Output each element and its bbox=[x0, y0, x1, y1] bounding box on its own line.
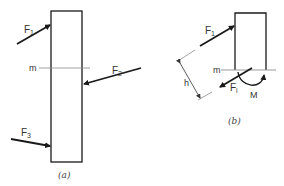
cut-body bbox=[235, 13, 266, 70]
force-f1-label: F1 bbox=[24, 24, 34, 36]
figure-a: m F1 F2 F3 (a) bbox=[11, 11, 141, 180]
free-body-diagram: m F1 F2 F3 (a) m F1 Fi M h (b) bbox=[0, 0, 284, 186]
f1-line-of-action bbox=[178, 50, 195, 61]
caption-a: (a) bbox=[58, 170, 71, 180]
h-dimension bbox=[180, 63, 200, 98]
caption-b: (b) bbox=[228, 116, 241, 126]
force-f3-label: F3 bbox=[21, 127, 31, 139]
section-label-m: m bbox=[29, 63, 37, 73]
force-f3-arrow bbox=[11, 139, 50, 146]
figure-b: m F1 Fi M h (b) bbox=[178, 13, 276, 126]
beam-body bbox=[51, 11, 82, 162]
force-fi-label: Fi bbox=[230, 82, 238, 94]
force-f2-label: F2 bbox=[112, 65, 122, 77]
h-label: h bbox=[184, 78, 189, 88]
fi-line-of-action bbox=[198, 92, 212, 100]
moment-label: M bbox=[250, 90, 258, 100]
force-f1-label: F1 bbox=[205, 25, 215, 37]
section-label-m: m bbox=[213, 65, 221, 75]
